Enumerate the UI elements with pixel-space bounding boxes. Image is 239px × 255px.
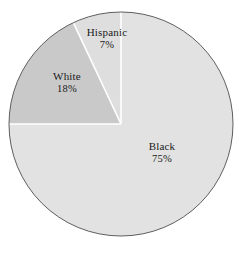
pie-chart-figure: Hispanic 7% White 18% Black 75% — [0, 0, 239, 255]
pie-chart-canvas — [0, 0, 239, 255]
